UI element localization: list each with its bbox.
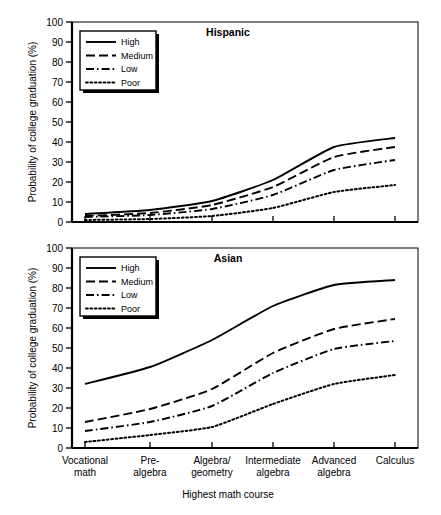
y-tick-label-asian-100: 100 [46, 243, 63, 254]
y-axis-title-hispanic: Probability of college graduation (%) [27, 42, 38, 203]
legend-asian: HighMediumLowPoor [80, 257, 159, 319]
y-tick-label-asian-80: 80 [52, 283, 64, 294]
legend-label-asian-low: Low [121, 290, 138, 300]
legend-label-asian-high: High [121, 263, 140, 273]
two-panel-line-chart: 0102030405060708090100Probability of col… [0, 0, 441, 515]
legend-label-hispanic-low: Low [121, 64, 138, 74]
x-category-labels: VocationalmathPre-algebraAlgebra/geometr… [62, 455, 414, 478]
y-tick-label-hispanic-70: 70 [52, 77, 64, 88]
panel-hispanic: 0102030405060708090100Probability of col… [27, 17, 418, 228]
y-tick-label-hispanic-40: 40 [52, 137, 64, 148]
legend-label-asian-medium: Medium [121, 277, 153, 287]
y-tick-label-hispanic-100: 100 [46, 17, 63, 28]
x-category-label-2-line2: geometry [191, 467, 233, 478]
y-tick-label-hispanic-30: 30 [52, 157, 64, 168]
x-category-label-1-line2: algebra [133, 467, 167, 478]
legend-label-hispanic-medium: Medium [121, 51, 153, 61]
legend-hispanic: HighMediumLowPoor [80, 31, 159, 93]
x-category-label-5-line1: Calculus [376, 455, 414, 466]
x-category-label-3-line1: Intermediate [245, 455, 301, 466]
x-category-label-2-line1: Algebra/ [193, 455, 230, 466]
y-tick-label-asian-60: 60 [52, 323, 64, 334]
legend-label-hispanic-high: High [121, 37, 140, 47]
legend-label-hispanic-poor: Poor [121, 78, 140, 88]
figure-container: 0102030405060708090100Probability of col… [0, 0, 441, 515]
y-tick-label-asian-50: 50 [52, 343, 64, 354]
y-tick-label-asian-40: 40 [52, 363, 64, 374]
y-tick-label-asian-20: 20 [52, 403, 64, 414]
x-category-label-4-line1: Advanced [312, 455, 356, 466]
y-tick-label-hispanic-50: 50 [52, 117, 64, 128]
x-axis-title: Highest math course [182, 489, 274, 500]
panel-title-asian: Asian [214, 252, 243, 264]
y-tick-label-hispanic-80: 80 [52, 57, 64, 68]
y-tick-label-asian-30: 30 [52, 383, 64, 394]
x-category-label-0-line2: math [74, 467, 96, 478]
y-tick-label-hispanic-10: 10 [52, 197, 64, 208]
x-category-label-4-line2: algebra [317, 467, 351, 478]
y-tick-label-asian-0: 0 [57, 443, 63, 454]
y-tick-label-hispanic-90: 90 [52, 37, 64, 48]
y-tick-label-hispanic-20: 20 [52, 177, 64, 188]
legend-label-asian-poor: Poor [121, 304, 140, 314]
y-axis-title-asian: Probability of college graduation (%) [27, 268, 38, 429]
panel-asian: 0102030405060708090100Probability of col… [27, 243, 418, 454]
x-category-label-0-line1: Vocational [62, 455, 108, 466]
y-tick-label-asian-90: 90 [52, 263, 64, 274]
y-tick-label-asian-10: 10 [52, 423, 64, 434]
x-category-label-1-line1: Pre- [141, 455, 160, 466]
x-category-label-3-line2: algebra [256, 467, 290, 478]
y-tick-label-hispanic-60: 60 [52, 97, 64, 108]
y-tick-label-asian-70: 70 [52, 303, 64, 314]
panel-title-hispanic: Hispanic [206, 26, 250, 38]
y-tick-label-hispanic-0: 0 [57, 217, 63, 228]
